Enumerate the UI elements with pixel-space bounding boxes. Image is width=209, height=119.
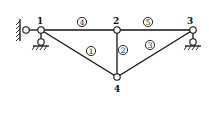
- joint-node-2: [114, 27, 120, 33]
- member-3: [117, 30, 193, 77]
- member-1: [41, 30, 117, 77]
- element-label-3: 3: [145, 40, 154, 49]
- node-label-3: 3: [187, 16, 193, 26]
- svg-text:3: 3: [148, 41, 153, 50]
- svg-text:2: 2: [121, 46, 126, 55]
- node-label-1: 1: [37, 16, 43, 26]
- joint-node-4: [114, 74, 120, 80]
- svg-text:5: 5: [146, 18, 151, 27]
- element-label-4: 4: [77, 17, 86, 26]
- element-label-1: 1: [86, 46, 95, 55]
- node-label-2: 2: [113, 16, 119, 26]
- node-label-4: 4: [114, 84, 120, 94]
- joint-node-1: [38, 27, 44, 33]
- svg-text:4: 4: [80, 18, 85, 27]
- joint-node-3: [190, 27, 196, 33]
- element-label-2: 2: [118, 45, 127, 54]
- svg-text:1: 1: [89, 47, 94, 56]
- truss-diagram: 1 2 3 4 4 5 1 2 3: [0, 0, 209, 119]
- element-label-5: 5: [143, 17, 152, 26]
